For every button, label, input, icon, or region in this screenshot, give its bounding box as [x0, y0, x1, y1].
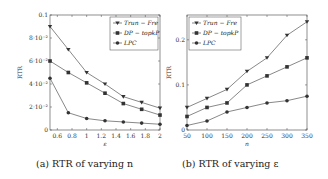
x-tick-label: 100	[201, 132, 213, 139]
legend-entry-label: Trun − Fre	[203, 19, 237, 26]
square-marker-icon	[122, 102, 126, 106]
triangle-marker-icon	[158, 107, 162, 111]
square-marker-icon	[116, 31, 120, 35]
legend: Trun − FreDP − topkPLPC	[110, 17, 160, 50]
y-tick-label: 0.1	[175, 81, 185, 88]
square-marker-icon	[265, 74, 269, 78]
triangle-marker-icon	[205, 97, 209, 101]
y-tick-label: 0	[44, 126, 48, 133]
legend-entry-label: DP − topkP	[202, 29, 239, 37]
square-marker-icon	[195, 31, 199, 35]
square-marker-icon	[205, 106, 209, 110]
circle-marker-icon	[140, 121, 144, 125]
triangle-marker-icon	[84, 71, 88, 75]
circle-marker-icon	[205, 119, 209, 123]
x-tick-label: 1.2	[97, 132, 107, 139]
x-axis-label: n	[245, 140, 249, 147]
y-tick-label: 0	[181, 126, 185, 133]
circle-marker-icon	[67, 111, 71, 115]
square-marker-icon	[185, 115, 189, 119]
x-tick-label: 150	[221, 132, 233, 139]
x-tick-label: 2	[158, 132, 162, 139]
triangle-marker-icon	[225, 88, 229, 92]
square-marker-icon	[48, 59, 52, 63]
y-axis-label: RTR	[16, 66, 23, 79]
square-marker-icon	[158, 113, 162, 117]
square-marker-icon	[305, 56, 309, 60]
x-tick-label: 50	[183, 132, 191, 139]
circle-marker-icon	[103, 119, 107, 123]
y-tick-label: 6·10⁻²	[29, 57, 49, 64]
figure-canvas: 0.60.811.21.41.61.8202·10⁻²4·10⁻²6·10⁻²8…	[0, 0, 328, 179]
series-dp-topkp	[48, 59, 162, 117]
legend-entry-label: Trun − Fre	[124, 19, 158, 26]
circle-marker-icon	[158, 122, 162, 126]
chart-rtr-varying-epsilon: 5010015020025030035000.10.2nRTRTrun − Fr…	[165, 15, 313, 147]
square-marker-icon	[67, 71, 71, 75]
y-tick-label: 0.2	[175, 36, 185, 43]
series-lpc	[185, 94, 309, 127]
x-tick-label: 0.8	[67, 132, 77, 139]
circle-marker-icon	[285, 99, 289, 103]
square-marker-icon	[140, 108, 144, 112]
x-tick-label: 1.8	[141, 132, 151, 139]
circle-marker-icon	[225, 110, 229, 114]
x-tick-label: 300	[281, 132, 293, 139]
circle-marker-icon	[122, 120, 126, 124]
square-marker-icon	[285, 65, 289, 69]
square-marker-icon	[245, 83, 249, 87]
x-tick-label: 1.4	[111, 132, 121, 139]
x-tick-label: 200	[241, 132, 253, 139]
y-tick-label: 0.1	[38, 11, 48, 18]
y-tick-label: 2·10⁻²	[29, 103, 49, 110]
circle-marker-icon	[116, 41, 120, 45]
caption-chart-b: (b) RTR of varying ε	[182, 158, 278, 169]
y-tick-label: 8·10⁻²	[29, 34, 49, 41]
legend: Trun − FreDP − topkPLPC	[189, 17, 241, 50]
caption-chart-a: (a) RTR of varying n	[36, 158, 133, 169]
x-tick-label: 1	[85, 132, 89, 139]
x-tick-label: 0.6	[53, 132, 63, 139]
circle-marker-icon	[85, 117, 89, 121]
circle-marker-icon	[48, 76, 52, 80]
legend-entry-label: LPC	[123, 39, 137, 46]
x-tick-label: 250	[261, 132, 273, 139]
circle-marker-icon	[305, 94, 309, 98]
circle-marker-icon	[185, 124, 189, 128]
circle-marker-icon	[245, 106, 249, 110]
triangle-marker-icon	[185, 106, 189, 110]
legend-entry-label: DP − topkP	[123, 29, 160, 37]
y-tick-label: 4·10⁻²	[29, 80, 49, 87]
x-axis-label: ε	[103, 140, 106, 147]
y-axis-label: RTR	[165, 66, 172, 79]
legend-entry-label: LPC	[202, 39, 216, 46]
x-tick-label: 350	[301, 132, 313, 139]
x-tick-label: 1.6	[126, 132, 136, 139]
square-marker-icon	[103, 91, 107, 95]
square-marker-icon	[225, 101, 229, 105]
square-marker-icon	[85, 81, 89, 85]
circle-marker-icon	[195, 41, 199, 45]
circle-marker-icon	[265, 101, 269, 105]
chart-rtr-varying-n: 0.60.811.21.41.61.8202·10⁻²4·10⁻²6·10⁻²8…	[16, 11, 162, 147]
